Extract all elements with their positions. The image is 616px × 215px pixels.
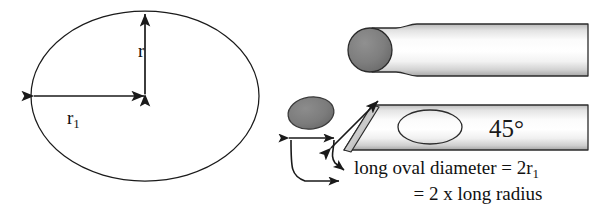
oval-drill-geometry-figure: r r1 45° long oval diameter = 2r1 = 2 x … [0, 0, 616, 215]
bevel-tip-tool-body [344, 105, 588, 150]
round-tip-head [348, 28, 392, 72]
round-tip-tool-body [372, 24, 588, 76]
caption-line-1-text: long oval diameter = 2r [354, 157, 533, 178]
angle-label: 45° [489, 116, 524, 141]
round-tip-tool-group [348, 24, 588, 76]
callout-arrows-group [291, 140, 344, 181]
large-ellipse-group [31, 11, 259, 181]
callout-arrow-from-bevel [332, 140, 344, 170]
bevel-tip-tool-group [331, 101, 588, 152]
figure-caption: long oval diameter = 2r1 = 2 x long radi… [348, 158, 598, 203]
short-radius-label: r [138, 41, 144, 60]
long-radius-label: r1 [67, 108, 80, 131]
caption-line-1: long oval diameter = 2r1 [348, 158, 598, 181]
caption-line-2: = 2 x long radius [348, 184, 598, 203]
small-oval-shape [286, 94, 336, 132]
caption-line-1-subscript: 1 [533, 166, 539, 181]
long-radius-label-subscript: 1 [73, 116, 79, 131]
small-oval-group [286, 94, 336, 138]
